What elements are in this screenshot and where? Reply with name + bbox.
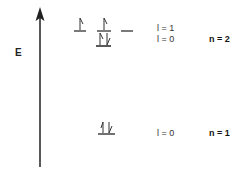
orbital-2p-2 [97, 18, 111, 31]
energy-axis-label: E [15, 47, 22, 58]
electron-up-icon [100, 33, 103, 45]
energy-diagram [0, 0, 252, 172]
sublevel-label-1s: l = 0 [157, 128, 174, 138]
energy-axis [36, 7, 45, 167]
level-label-n1: n = 1 [209, 128, 230, 138]
sublevel-label-2p: l = 1 [157, 23, 174, 33]
orbital-2p-1 [74, 18, 86, 31]
orbital-1s [98, 122, 115, 134]
level-label-n2: n = 2 [209, 34, 230, 44]
electron-down-icon [107, 33, 110, 45]
electron-up-icon [80, 18, 83, 30]
electron-down-icon [109, 122, 112, 133]
sublevel-label-2s: l = 0 [157, 34, 174, 44]
electron-up-icon [101, 122, 103, 133]
electron-up-icon [104, 18, 107, 30]
orbital-2s [96, 33, 111, 46]
